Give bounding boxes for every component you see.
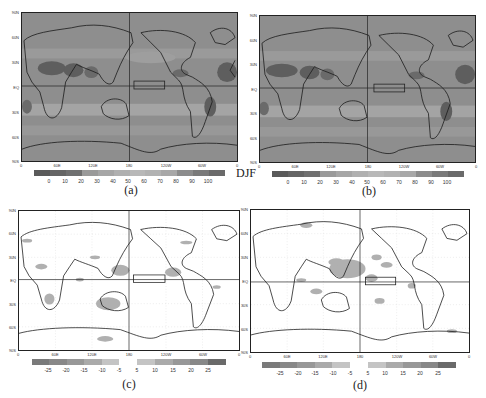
lat-tick: 60S bbox=[243, 136, 257, 141]
lon-tick: 60E bbox=[53, 163, 60, 168]
caption-a: (a) bbox=[124, 183, 137, 198]
lat-tick: 90N bbox=[2, 208, 16, 213]
lon-tick: 120E bbox=[318, 354, 327, 359]
lat-tick: 90S bbox=[234, 350, 248, 355]
colorbar-label: -5 bbox=[348, 370, 352, 376]
colorbar-label: -20 bbox=[294, 370, 301, 376]
map-frame-b bbox=[259, 15, 476, 163]
colorbar-label: -15 bbox=[80, 367, 87, 373]
colorbar-label: 10 bbox=[62, 178, 68, 184]
colorbar-label: -25 bbox=[44, 367, 51, 373]
lon-tick: 60E bbox=[291, 164, 298, 169]
lat-tick: 30N bbox=[5, 60, 19, 65]
lon-tick: 120E bbox=[87, 352, 96, 357]
colorbar-c-positive bbox=[137, 359, 226, 365]
lat-tick: 60N bbox=[5, 35, 19, 40]
colorbar-label: -10 bbox=[329, 370, 336, 376]
colorbar-label: 25 bbox=[435, 370, 441, 376]
lon-tick: 0 bbox=[468, 354, 470, 359]
lon-tick: 0 bbox=[249, 354, 251, 359]
lat-tick: 30N bbox=[243, 62, 257, 67]
lon-tick: 60E bbox=[283, 354, 290, 359]
colorbar-label: -25 bbox=[276, 370, 283, 376]
lon-tick: 120E bbox=[88, 163, 97, 168]
colorbar-b bbox=[272, 171, 464, 177]
colorbar-label: 100 bbox=[204, 178, 212, 184]
lat-tick: 30S bbox=[243, 111, 257, 116]
lat-tick: 90S bbox=[5, 159, 19, 164]
colorbar-label: 60 bbox=[141, 178, 147, 184]
lat-tick: EQ bbox=[2, 278, 16, 283]
lat-tick: 30S bbox=[234, 303, 248, 308]
lat-tick: 90S bbox=[243, 160, 257, 165]
lat-tick: 60S bbox=[5, 135, 19, 140]
colorbar-label: -5 bbox=[117, 367, 121, 373]
lat-tick: 60N bbox=[234, 231, 248, 236]
colorbar-label: 20 bbox=[317, 179, 323, 185]
colorbar-label: 60 bbox=[380, 179, 386, 185]
lat-tick: 90N bbox=[234, 207, 248, 212]
colorbar-label: -15 bbox=[311, 370, 318, 376]
lat-tick: 60S bbox=[234, 327, 248, 332]
colorbar-d-negative bbox=[262, 362, 350, 368]
colorbar-label: 70 bbox=[157, 178, 163, 184]
lon-tick: 120W bbox=[161, 352, 171, 357]
colorbar-label: 40 bbox=[349, 179, 355, 185]
colorbar-label: 90 bbox=[189, 178, 195, 184]
colorbar-label: 0 bbox=[287, 179, 290, 185]
caption-c: (c) bbox=[122, 377, 135, 392]
caption-b: (b) bbox=[362, 184, 376, 199]
lon-tick: 0 bbox=[17, 352, 19, 357]
map-frame-c bbox=[18, 210, 240, 351]
world-map-b bbox=[260, 16, 475, 162]
colorbar-label: 5 bbox=[367, 370, 370, 376]
lat-tick: 30N bbox=[234, 255, 248, 260]
lat-tick: 30S bbox=[5, 110, 19, 115]
lon-tick: 180 bbox=[357, 354, 364, 359]
colorbar-label: 30 bbox=[94, 178, 100, 184]
lon-tick: 120W bbox=[399, 164, 409, 169]
colorbar-label: 30 bbox=[333, 179, 339, 185]
lat-tick: 90S bbox=[2, 348, 16, 353]
lat-tick: EQ bbox=[243, 87, 257, 92]
lon-tick: 120W bbox=[161, 163, 171, 168]
colorbar-label: 10 bbox=[152, 367, 158, 373]
lat-tick: 60N bbox=[243, 38, 257, 43]
colorbar-label: 70 bbox=[396, 179, 402, 185]
colorbar-label: 10 bbox=[382, 370, 388, 376]
colorbar-label: 15 bbox=[400, 370, 406, 376]
lat-tick: 90N bbox=[5, 10, 19, 15]
world-map-d bbox=[251, 210, 469, 352]
colorbar-label: 5 bbox=[136, 367, 139, 373]
colorbar-label: 15 bbox=[170, 367, 176, 373]
colorbar-label: 20 bbox=[78, 178, 84, 184]
lon-tick: 60W bbox=[436, 164, 444, 169]
colorbar-d-positive bbox=[368, 362, 456, 368]
colorbar-label: 25 bbox=[205, 367, 211, 373]
colorbar-label: -10 bbox=[98, 367, 105, 373]
colorbar-label: 40 bbox=[110, 178, 116, 184]
lon-tick: 60E bbox=[51, 352, 58, 357]
world-map-a bbox=[22, 13, 237, 161]
lat-tick: 60N bbox=[2, 231, 16, 236]
lon-tick: 60W bbox=[199, 352, 207, 357]
lon-tick: 0 bbox=[258, 164, 260, 169]
lon-tick: 120W bbox=[392, 354, 402, 359]
colorbar-label: 20 bbox=[188, 367, 194, 373]
lat-tick: 60S bbox=[2, 325, 16, 330]
lon-tick: 120E bbox=[326, 164, 335, 169]
lat-tick: EQ bbox=[5, 85, 19, 90]
map-frame-d bbox=[250, 209, 470, 353]
colorbar-label: 0 bbox=[48, 178, 51, 184]
colorbar-label: 90 bbox=[428, 179, 434, 185]
colorbar-label: 100 bbox=[443, 179, 451, 185]
colorbar-a bbox=[34, 170, 225, 176]
world-map-c bbox=[19, 211, 239, 350]
colorbar-c-negative bbox=[32, 359, 119, 365]
colorbar-label: -20 bbox=[62, 367, 69, 373]
season-label: DJF bbox=[236, 166, 256, 181]
lon-tick: 0 bbox=[475, 164, 477, 169]
lat-tick: 30N bbox=[2, 255, 16, 260]
caption-d: (d) bbox=[353, 378, 367, 393]
lon-tick: 180 bbox=[126, 352, 133, 357]
